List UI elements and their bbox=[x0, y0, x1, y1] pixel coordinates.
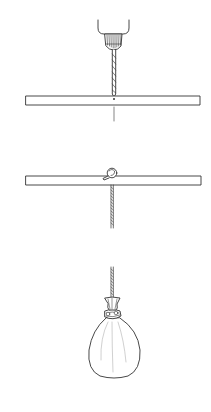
cord bbox=[111, 267, 113, 300]
bag-icon bbox=[89, 297, 140, 378]
rod bbox=[26, 96, 200, 105]
illustration bbox=[0, 0, 211, 412]
thread-step bbox=[26, 168, 201, 228]
cord bbox=[111, 185, 113, 228]
drill-step bbox=[26, 20, 200, 121]
drill-icon bbox=[98, 20, 129, 97]
hang-step bbox=[89, 267, 140, 378]
